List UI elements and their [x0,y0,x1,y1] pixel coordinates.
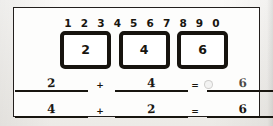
numeral-box-row: 2 4 6 [60,31,228,69]
strip-digit-5: 5 [128,18,140,29]
equation-2-result-rule [207,116,273,118]
equation-1-right-blank[interactable]: 4 [115,70,188,92]
numeral-box-3: 6 [177,31,228,69]
equation-2-left-blank[interactable]: 4 [15,96,88,118]
equation-2-right-rule [115,116,188,118]
equation-1-plus-sign: + [93,81,107,90]
strip-digit-10: 0 [210,18,222,29]
equation-1-result-rule [207,90,273,92]
numeral-box-2-value: 4 [140,44,149,57]
equation-row-1: 2 + 4 = 6 [14,70,261,94]
equation-row-2: 4 + 2 = 6 [14,96,261,120]
equation-2-result-blank[interactable]: 6 [207,96,273,118]
equation-2-plus-sign: + [93,107,107,116]
equation-2-right-answer: 2 [115,101,188,116]
strip-digit-8: 8 [177,18,189,29]
equation-1-left-blank[interactable]: 2 [15,70,88,92]
equation-1-right-rule [115,90,188,92]
equation-1-right-answer: 4 [115,75,188,90]
numeral-box-2: 4 [119,31,170,69]
equation-2-left-rule [15,116,88,118]
numeral-box-1: 2 [60,31,111,69]
strip-digit-3: 3 [95,18,107,29]
strip-digit-1: 1 [62,18,74,29]
printed-frame: 1 2 3 4 5 6 7 8 9 0 2 4 6 2 [13,7,260,117]
equation-1-result-answer: 6 [207,75,273,90]
equation-2-left-answer: 4 [15,101,88,116]
equation-2-result-answer: 6 [207,101,273,116]
equation-1-equals-sign: = [188,81,202,90]
equation-1-left-rule [15,90,88,92]
equation-2-right-blank[interactable]: 2 [115,96,188,118]
equation-1-result-blank[interactable]: 6 [207,70,273,92]
numeral-box-3-value: 6 [198,44,207,57]
strip-digit-2: 2 [78,18,90,29]
worksheet-scan: 1 2 3 4 5 6 7 8 9 0 2 4 6 2 [0,0,273,126]
strip-digit-4: 4 [111,18,123,29]
strip-digit-6: 6 [144,18,156,29]
strip-digit-7: 7 [161,18,173,29]
number-strip: 1 2 3 4 5 6 7 8 9 0 [62,17,222,30]
numeral-box-1-value: 2 [81,44,90,57]
equation-1-left-answer: 2 [15,75,88,90]
strip-digit-9: 9 [194,18,206,29]
equation-2-equals-sign: = [188,107,202,116]
